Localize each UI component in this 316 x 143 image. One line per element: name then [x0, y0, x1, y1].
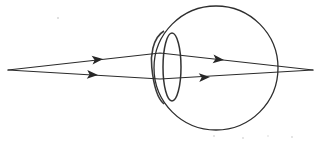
- crystalline-lens-outline: [163, 33, 181, 101]
- lower-ray-group: [8, 70, 313, 82]
- upper-ray-path: [8, 53, 313, 70]
- upper-ray-group: [8, 53, 313, 70]
- eyeball-globe-outline: [154, 6, 278, 130]
- scan-speck: [267, 135, 269, 137]
- eye-diagram-canvas: [0, 0, 316, 143]
- lower-ray-arrow-right: [199, 73, 211, 82]
- eye-ray-diagram-figure: [0, 0, 316, 143]
- scan-speck: [291, 136, 293, 138]
- scan-speck: [57, 17, 59, 19]
- cornea-arc: [151, 31, 164, 104]
- lower-ray-path: [8, 70, 313, 79]
- scan-speck: [213, 135, 215, 137]
- scan-speck: [242, 137, 244, 139]
- upper-ray-arrow-left: [92, 55, 104, 65]
